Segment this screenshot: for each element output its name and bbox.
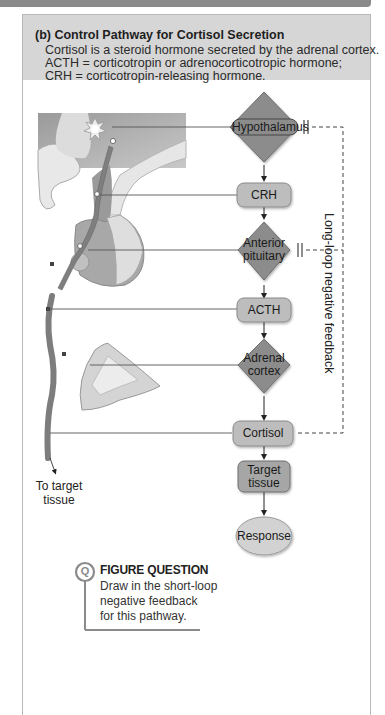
- hypothalamus-pituitary-illustration: [38, 113, 186, 290]
- acth-label: ACTH: [237, 304, 291, 317]
- target-label-2: tissue: [238, 477, 290, 490]
- adrenal-label-2: cortex: [238, 365, 290, 378]
- to-target-line-1: To target: [24, 479, 94, 493]
- fq-line-3: for this pathway.: [100, 609, 217, 624]
- response-label: Response: [236, 530, 292, 543]
- fq-line-2: negative feedback: [100, 594, 217, 609]
- cortisol-label: Cortisol: [233, 427, 293, 440]
- to-target-line-2: tissue: [24, 493, 94, 507]
- feedback-inhibition-bars: [298, 120, 308, 257]
- anterior-label-2: pituitary: [238, 250, 290, 263]
- to-target-tissue-label: To target tissue: [24, 479, 94, 507]
- feedback-label: Long-loop negative feedback: [322, 213, 336, 374]
- fq-line-1: Draw in the short-loop: [100, 579, 217, 594]
- figure-question-text: Draw in the short-loop negative feedback…: [100, 579, 217, 624]
- question-icon: Q: [80, 565, 90, 577]
- crh-label: CRH: [237, 189, 291, 202]
- hypothalamus-label: Hypothalamus: [232, 121, 298, 134]
- blood-vessel: [48, 296, 54, 458]
- adrenal-illustration: [62, 343, 160, 410]
- figure-question-title: FIGURE QUESTION: [100, 563, 208, 577]
